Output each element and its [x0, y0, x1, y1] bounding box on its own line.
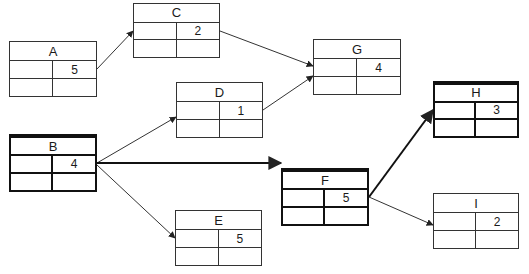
activity-name: H	[435, 83, 517, 101]
edge-f-h-arrow	[369, 110, 433, 197]
edge-b-d-arrow	[97, 117, 176, 163]
cell-empty	[134, 39, 177, 57]
activity-node-e[interactable]: E 5	[175, 210, 262, 266]
edge-a-c-arrow	[97, 31, 133, 69]
cell-empty	[435, 101, 476, 119]
cell-empty	[220, 119, 263, 137]
cell-empty	[314, 58, 357, 76]
edge-f-i-arrow	[369, 197, 433, 225]
cell-empty	[11, 154, 53, 172]
cell-empty	[357, 76, 400, 94]
activity-name: E	[176, 211, 261, 229]
cell-empty	[176, 247, 219, 265]
cell-empty	[435, 118, 476, 136]
activity-duration: 4	[53, 154, 95, 172]
cell-empty	[10, 60, 53, 78]
cell-empty	[476, 230, 518, 248]
cell-empty	[434, 230, 476, 248]
activity-node-g[interactable]: G 4	[313, 39, 401, 95]
activity-name: A	[10, 42, 96, 60]
cell-empty	[283, 206, 325, 224]
activity-node-c[interactable]: C 2	[133, 3, 220, 58]
activity-duration: 3	[476, 101, 517, 119]
activity-duration: 4	[357, 58, 400, 76]
cell-empty	[219, 247, 262, 265]
cell-empty	[10, 78, 53, 96]
cell-empty	[53, 78, 96, 96]
activity-duration: 5	[53, 60, 96, 78]
activity-name: C	[134, 4, 219, 22]
activity-duration: 1	[220, 101, 263, 119]
cell-empty	[476, 118, 517, 136]
activity-name: F	[283, 170, 367, 188]
activity-duration: 2	[177, 22, 220, 40]
activity-name: I	[434, 194, 518, 212]
cell-empty	[11, 172, 53, 190]
edge-c-g-arrow	[220, 31, 313, 66]
activity-node-f[interactable]: F 5	[281, 168, 369, 226]
activity-node-h[interactable]: H 3	[433, 81, 519, 138]
activity-name: G	[314, 40, 400, 58]
cell-empty	[176, 229, 219, 247]
edge-b-e-arrow	[97, 165, 175, 238]
activity-node-a[interactable]: A 5	[9, 41, 97, 97]
edge-d-g-arrow	[263, 76, 313, 110]
activity-name: D	[177, 83, 262, 101]
cell-empty	[325, 206, 367, 224]
activity-node-d[interactable]: D 1	[176, 82, 263, 138]
activity-duration: 5	[219, 229, 262, 247]
cell-empty	[434, 212, 476, 230]
activity-node-i[interactable]: I 2	[433, 193, 519, 249]
cell-empty	[177, 39, 220, 57]
cell-empty	[53, 172, 95, 190]
cell-empty	[314, 76, 357, 94]
activity-duration: 2	[476, 212, 518, 230]
activity-duration: 5	[325, 188, 367, 206]
activity-node-b[interactable]: B 4	[9, 134, 97, 192]
cell-empty	[134, 22, 177, 40]
cell-empty	[283, 188, 325, 206]
cell-empty	[177, 101, 220, 119]
activity-name: B	[11, 136, 95, 154]
cell-empty	[177, 119, 220, 137]
